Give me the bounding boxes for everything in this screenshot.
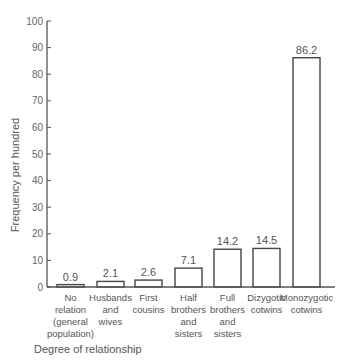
bar-value-label: 2.1: [103, 267, 118, 279]
bar: 14.5: [253, 234, 280, 287]
bar-value-label: 7.1: [181, 254, 196, 266]
bar: 2.6: [135, 266, 162, 287]
x-category-label: Halfbrothersandsisters: [171, 292, 206, 339]
bar: 86.2: [293, 44, 320, 287]
bar: 14.2: [214, 235, 241, 287]
y-tick-label: 90: [32, 42, 44, 53]
bar-value-label: 2.6: [141, 266, 156, 278]
y-tick-label: 70: [32, 95, 44, 106]
y-tick-label: 10: [32, 255, 44, 266]
bar-chart: 0102030405060708090100 0.92.12.67.114.21…: [0, 0, 353, 363]
y-axis-title: Frequency per hundred: [9, 118, 21, 232]
bar: 7.1: [175, 254, 202, 287]
x-category-label: Husbandsandwives: [89, 292, 132, 327]
x-category-label: Monozygoticcotwins: [280, 292, 334, 315]
x-category-label: Norelation(generalpopulation): [47, 292, 94, 339]
bars: 0.92.12.67.114.214.586.2: [57, 44, 320, 287]
bar-value-label: 14.2: [217, 235, 238, 247]
y-tick-label: 80: [32, 69, 44, 80]
x-category-label: Fullbrothersandsisters: [210, 292, 245, 339]
bar: 2.1: [97, 267, 124, 287]
x-axis: Norelation(generalpopulation)Husbandsand…: [47, 287, 335, 339]
y-tick-label: 50: [32, 149, 44, 160]
x-category-label: Firstcousins: [132, 292, 164, 315]
y-tick-label: 60: [32, 122, 44, 133]
bar-value-label: 86.2: [296, 44, 317, 56]
y-tick-label: 0: [37, 282, 43, 293]
x-axis-title: Degree of relationship: [34, 343, 142, 355]
bar-value-label: 0.9: [63, 271, 78, 283]
bar: 0.9: [57, 271, 84, 287]
y-tick-label: 100: [26, 16, 43, 27]
y-tick-label: 20: [32, 228, 44, 239]
y-tick-label: 30: [32, 202, 44, 213]
bar-value-label: 14.5: [256, 234, 277, 246]
y-axis: 0102030405060708090100: [26, 16, 51, 293]
y-tick-label: 40: [32, 175, 44, 186]
